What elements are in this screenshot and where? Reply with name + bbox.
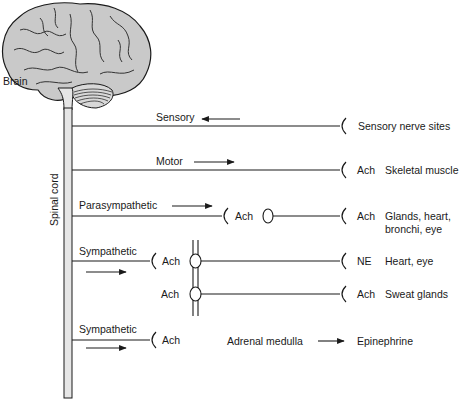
sympathetic-transmitter: NE xyxy=(357,256,372,267)
sympathetic-target: Heart, eye xyxy=(385,256,433,267)
spinal-cord-label: Spinal cord xyxy=(49,173,60,226)
motor-transmitter: Ach xyxy=(357,165,375,176)
sympathetic-adrenal-label: Sympathetic xyxy=(79,324,137,335)
adrenal-ganglion-transmitter: Ach xyxy=(162,335,180,346)
sympathetic-label: Sympathetic xyxy=(79,246,137,257)
parasympathetic-label: Parasympathetic xyxy=(79,200,157,211)
adrenal-medulla-label: Adrenal medulla xyxy=(227,336,303,347)
parasympathetic-target-line1: Glands, heart, xyxy=(385,211,451,222)
motor-target: Skeletal muscle xyxy=(385,165,459,176)
parasympathetic-ganglion-transmitter: Ach xyxy=(235,211,253,222)
sweat-ganglion-transmitter: Ach xyxy=(161,289,179,300)
brain-label: Brain xyxy=(3,76,28,87)
sensory-target: Sensory nerve sites xyxy=(358,121,450,132)
parasympathetic-transmitter: Ach xyxy=(357,211,375,222)
brain-illustration xyxy=(3,3,151,110)
spinal-cord xyxy=(64,108,72,398)
parasympathetic-target-line2: bronchi, eye xyxy=(385,224,442,235)
motor-label: Motor xyxy=(156,156,183,167)
sensory-label: Sensory xyxy=(156,112,195,123)
epinephrine-label: Epinephrine xyxy=(357,336,413,347)
sweat-target: Sweat glands xyxy=(385,289,448,300)
sympathetic-ganglion-transmitter: Ach xyxy=(162,256,180,267)
sweat-transmitter: Ach xyxy=(357,289,375,300)
